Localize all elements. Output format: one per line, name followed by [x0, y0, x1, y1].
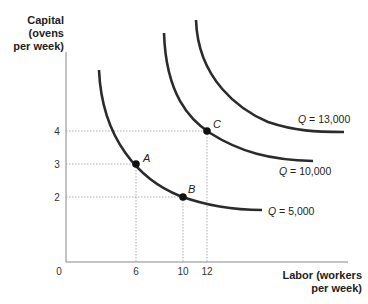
x-tick-label: 6	[133, 266, 139, 277]
y-tick-label: 2	[54, 192, 60, 203]
point-c-label: C	[213, 118, 221, 130]
x-tick-label: 12	[201, 266, 213, 277]
point-b	[179, 193, 187, 201]
isoquant-chart: A B C 4 3 2 0 6 10 12 Q = 5,000 Q = 10,0…	[0, 0, 368, 304]
point-b-label: B	[188, 183, 195, 195]
q10000-label: Q = 10,000	[279, 165, 331, 177]
isoquant-q10000	[164, 33, 313, 161]
x-tick-label: 10	[177, 266, 189, 277]
point-c	[203, 127, 211, 135]
x-tick-label: 0	[56, 266, 62, 277]
point-a-label: A	[142, 152, 150, 164]
isoquant-q5000	[99, 70, 262, 210]
q13000-label: Q = 13,000	[298, 113, 350, 125]
y-tick-label: 3	[54, 159, 60, 170]
q5000-label: Q = 5,000	[268, 205, 315, 217]
y-tick-label: 4	[54, 126, 60, 137]
point-a	[132, 160, 140, 168]
